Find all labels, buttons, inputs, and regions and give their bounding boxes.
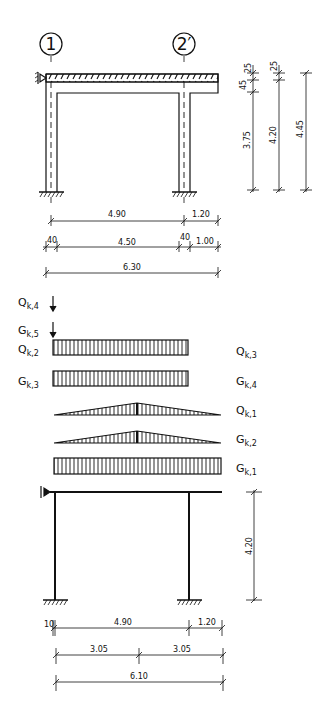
uniform-load-qk2 [53, 340, 188, 355]
top-frame [35, 33, 218, 203]
pin-support-icon [41, 486, 50, 498]
dim-label: 4.50 [118, 239, 136, 247]
vdim-label: 45 [240, 80, 248, 90]
static-system-frame [41, 486, 262, 605]
dim-label: 3.05 [173, 646, 191, 654]
vdim-label: 4.45 [297, 120, 305, 138]
load-label-gk5: Gk,5 [18, 325, 39, 339]
pin-support-icon [35, 72, 46, 84]
structural-frame-diagram: 1 2′ 4.90 1.20 40 4.50 40 1.00 6.30 25 4… [0, 0, 327, 711]
uniform-load-gk1 [54, 458, 221, 474]
fixed-support-icon [177, 600, 202, 605]
vdim-label: 25 [245, 63, 253, 73]
vdim-label: 25 [271, 61, 279, 71]
load-label-gk3: Gk,3 [18, 376, 39, 390]
load-label-gk1: Gk,1 [236, 463, 257, 477]
loads [50, 296, 221, 474]
fixed-support-icon [43, 600, 68, 605]
triangular-load-gk2 [54, 430, 221, 444]
point-load-arrow-icon [50, 322, 56, 337]
load-label-qk1: Qk,1 [236, 405, 257, 419]
dim-label: 4.90 [114, 619, 132, 627]
vdim-label: 4.20 [246, 537, 254, 555]
dim-label: 3.05 [90, 646, 108, 654]
dim-label: 4.90 [108, 211, 126, 219]
load-label-qk2: Qk,2 [18, 344, 39, 358]
fixed-support-icon [172, 192, 197, 197]
dim-label: 1.20 [198, 619, 216, 627]
load-label-qk4: Qk,4 [18, 297, 39, 311]
axis-label-1: 1 [46, 36, 57, 53]
fixed-support-icon [39, 192, 64, 197]
dim-label: 40 [47, 237, 57, 245]
vdim-label: 3.75 [244, 131, 252, 149]
dim-label: 40 [180, 234, 190, 242]
load-label-gk2: Gk,2 [236, 434, 257, 448]
dim-label: 6.10 [130, 673, 148, 681]
load-label-qk3: Qk,3 [236, 346, 257, 360]
dim-label: 1.20 [192, 211, 210, 219]
dim-label: 10 [44, 621, 54, 629]
point-load-arrow-icon [50, 296, 56, 311]
drawing-canvas [0, 0, 327, 711]
vdim-label: 4.20 [270, 126, 278, 144]
slab-hatch [46, 74, 218, 82]
dim-label: 1.00 [196, 238, 214, 246]
uniform-load-gk3 [53, 371, 188, 386]
triangular-load-qk1 [54, 402, 221, 416]
load-label-gk4: Gk,4 [236, 376, 257, 390]
dim-label: 6.30 [123, 264, 141, 272]
axis-label-2: 2′ [177, 36, 192, 53]
